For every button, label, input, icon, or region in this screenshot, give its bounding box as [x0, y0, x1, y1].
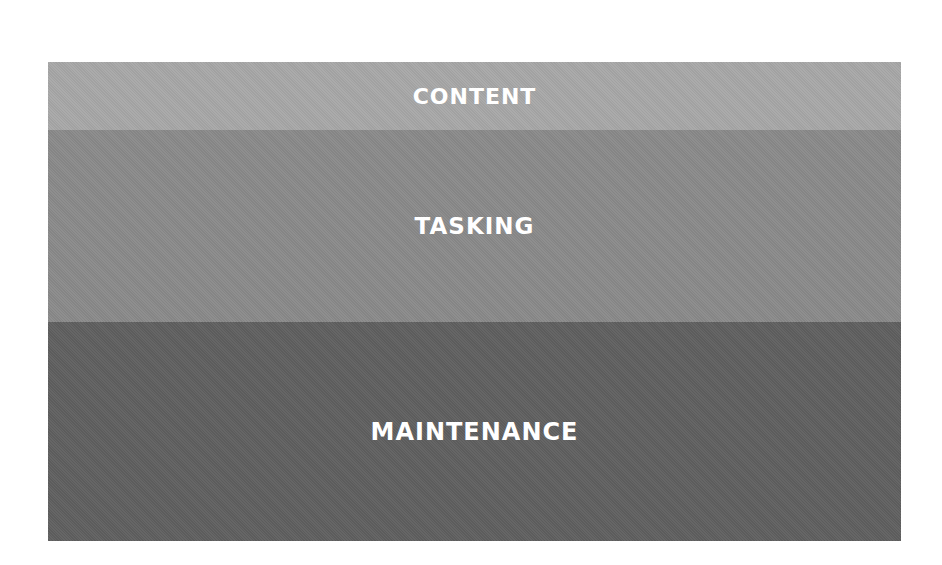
layer-label: CONTENT: [413, 84, 537, 109]
layer-label: TASKING: [415, 213, 535, 239]
layer-content: CONTENT: [48, 62, 901, 130]
layer-stack-diagram: CONTENT TASKING MAINTENANCE: [48, 62, 901, 541]
layer-label: MAINTENANCE: [371, 418, 579, 446]
layer-tasking: TASKING: [48, 130, 901, 322]
layer-maintenance: MAINTENANCE: [48, 322, 901, 541]
